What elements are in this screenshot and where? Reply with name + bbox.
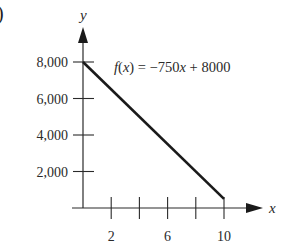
func-rest: + 8000 xyxy=(186,59,230,75)
func-eq: = −750 xyxy=(134,59,179,75)
line-chart: y x 2,0004,0006,0008,000 2610 f(x) = −75… xyxy=(0,0,284,246)
y-tick-label: 2,000 xyxy=(37,165,69,180)
y-axis-arrow-icon xyxy=(78,27,88,43)
x-ticks: 2610 xyxy=(108,197,231,244)
x-axis-label: x xyxy=(268,200,276,216)
function-line xyxy=(83,62,224,199)
x-tick-label: 6 xyxy=(164,229,171,244)
y-tick-label: 6,000 xyxy=(37,92,69,107)
function-label: f(x) = −750x + 8000 xyxy=(114,59,230,76)
x-tick-label: 10 xyxy=(217,229,231,244)
series-line xyxy=(83,62,224,199)
x-tick-label: 2 xyxy=(108,229,115,244)
y-tick-label: 8,000 xyxy=(37,55,69,70)
x-axis-arrow-icon xyxy=(246,203,263,213)
y-axis-label: y xyxy=(78,7,87,23)
y-tick-label: 4,000 xyxy=(37,128,69,143)
y-ticks: 2,0004,0006,0008,000 xyxy=(37,55,95,180)
